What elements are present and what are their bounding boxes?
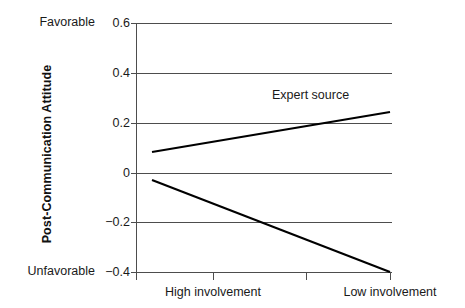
axis-anchor-unfavorable: Unfavorable [28, 264, 95, 278]
y-tick-label-0.2: 0.2 [96, 117, 130, 130]
x-tick-label-low-involvement: Low involvement [324, 285, 456, 299]
data-line-expert-source [152, 112, 390, 152]
x-tick-label-high-involvement: High involvement [147, 285, 279, 299]
data-line-lower-series [152, 180, 390, 272]
y-tick-marks [131, 24, 137, 273]
series-annotation-expert-source: Expert source [272, 88, 349, 102]
x-tick-marks [137, 273, 391, 281]
plot-area [0, 0, 465, 308]
axis-anchor-favorable: Favorable [39, 15, 95, 29]
y-tick-label--0.4: −0.4 [96, 266, 130, 279]
y-tick-label--0.2: −0.2 [96, 216, 130, 229]
data-series [152, 112, 390, 272]
y-tick-label-0.4: 0.4 [96, 67, 130, 80]
y-axis-title: Post-Communication Attitude [40, 49, 54, 259]
chart-figure: Favorable Unfavorable Post-Communication… [0, 0, 465, 308]
y-tick-label-0: 0 [96, 167, 130, 180]
y-tick-label-0.6: 0.6 [96, 17, 130, 30]
